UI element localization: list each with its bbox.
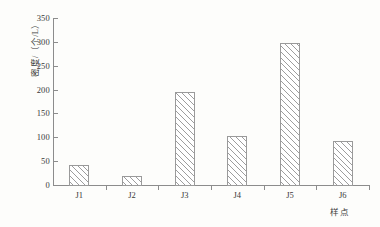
x-tick-mark xyxy=(106,186,107,190)
bar-chart-figure: 密度/（个/L） 050100150200250300350 J1J2J3J4J… xyxy=(0,0,380,227)
plot-area xyxy=(53,19,369,186)
bar xyxy=(122,176,142,186)
y-tick-label-wrap: 100 xyxy=(0,133,50,134)
x-tick-mark xyxy=(264,186,265,190)
x-tick-label: J4 xyxy=(217,191,257,200)
y-tick-label-wrap: 250 xyxy=(0,62,50,63)
y-tick-label: 350 xyxy=(0,14,50,23)
y-tick-label: 150 xyxy=(0,109,50,118)
y-tick-label: 50 xyxy=(0,157,50,166)
y-tick-label: 100 xyxy=(0,133,50,142)
y-tick-label-wrap: 300 xyxy=(0,38,50,39)
bar xyxy=(175,92,195,186)
y-tick-label: 200 xyxy=(0,86,50,95)
y-tick-label-wrap: 0 xyxy=(0,181,50,182)
x-tick-label: J6 xyxy=(323,191,363,200)
y-tick-label-wrap: 150 xyxy=(0,109,50,110)
x-tick-label: J5 xyxy=(270,191,310,200)
x-axis-title: 样点 xyxy=(330,205,349,217)
bar xyxy=(333,141,353,186)
bar xyxy=(227,136,247,186)
x-tick-mark xyxy=(316,186,317,190)
x-tick-label: J2 xyxy=(112,191,152,200)
y-tick-label-wrap: 200 xyxy=(0,86,50,87)
x-tick-mark xyxy=(211,186,212,190)
x-tick-mark xyxy=(158,186,159,190)
x-tick-label: J1 xyxy=(59,191,99,200)
y-tick-label-wrap: 350 xyxy=(0,14,50,15)
x-tick-label: J3 xyxy=(165,191,205,200)
bar xyxy=(69,165,89,186)
y-tick-label: 0 xyxy=(0,181,50,190)
y-tick-label: 300 xyxy=(0,38,50,47)
x-tick-mark xyxy=(369,186,370,190)
y-tick-label: 250 xyxy=(0,62,50,71)
bar xyxy=(280,43,300,186)
y-tick-label-wrap: 50 xyxy=(0,157,50,158)
